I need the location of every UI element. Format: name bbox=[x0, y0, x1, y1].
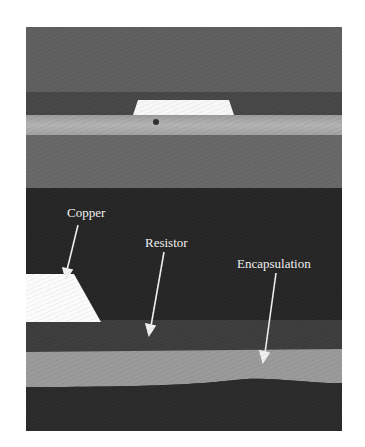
micrograph-figure: Copper Resistor Encapsulation bbox=[26, 27, 342, 431]
copper-block bbox=[26, 274, 101, 322]
encapsulation-label: Encapsulation bbox=[237, 256, 311, 271]
copper-arrow-line bbox=[67, 225, 78, 270]
resistor-arrow-line bbox=[151, 252, 164, 326]
resistor-label: Resistor bbox=[145, 235, 188, 250]
resistor-arrowhead-icon bbox=[146, 324, 155, 335]
encapsulation-arrow-line bbox=[265, 273, 276, 353]
copper-label: Copper bbox=[67, 205, 105, 220]
bottom-shapes bbox=[26, 27, 342, 431]
